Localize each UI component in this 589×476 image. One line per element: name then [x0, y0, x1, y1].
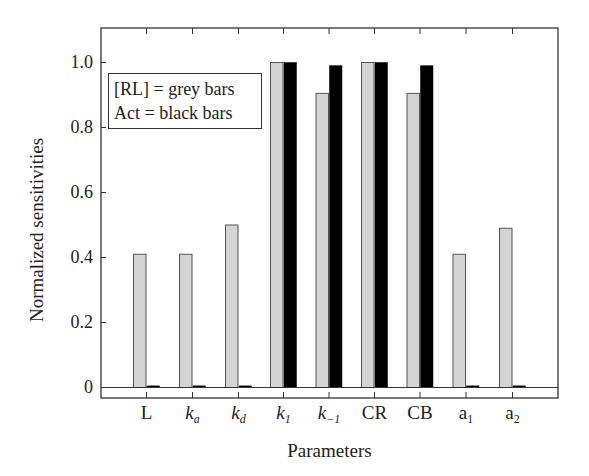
y-tick-label: 1.0: [53, 52, 93, 73]
grey-bar-1: [180, 254, 193, 387]
x-tick-label: ka: [171, 402, 215, 427]
y-tick-label: 0: [53, 377, 93, 398]
grey-bar-3: [271, 63, 284, 388]
grey-bar-6: [407, 93, 420, 387]
y-axis-label-container: Normalized sensitivities: [22, 70, 52, 390]
grey-bar-8: [500, 228, 513, 387]
grey-bar-0: [134, 254, 147, 387]
y-tick-label: 0.8: [53, 117, 93, 138]
x-tick-label: k1: [262, 402, 306, 427]
black-bar-6: [421, 66, 434, 388]
y-axis-label: Normalized sensitivities: [26, 138, 48, 322]
x-axis-label: Parameters: [0, 440, 589, 462]
x-tick-label: kd: [217, 402, 261, 427]
y-tick-label: 0.6: [53, 182, 93, 203]
grey-bar-5: [362, 63, 375, 388]
x-tick-label: L: [125, 402, 169, 424]
x-tick-label: a2: [491, 402, 535, 427]
legend-entry-rl: [RL] = grey bars: [114, 77, 261, 101]
x-tick-label: CR: [353, 402, 397, 424]
grey-bar-2: [226, 225, 239, 388]
x-tick-label: CB: [398, 402, 442, 424]
legend-entry-act: Act = black bars: [114, 101, 261, 125]
black-bar-5: [375, 63, 388, 388]
grey-bar-7: [453, 254, 466, 387]
black-bar-4: [330, 66, 343, 388]
black-bar-3: [284, 63, 297, 388]
x-tick-label: a1: [444, 402, 488, 427]
y-tick-label: 0.2: [53, 312, 93, 333]
grey-bar-4: [316, 93, 329, 387]
x-tick-label: k−1: [307, 402, 351, 427]
y-tick-label: 0.4: [53, 247, 93, 268]
legend: [RL] = grey bars Act = black bars: [108, 73, 262, 129]
